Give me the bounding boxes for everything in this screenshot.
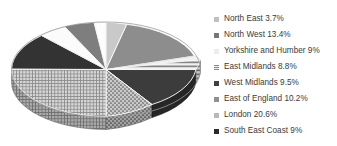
legend-label-london: London 20.6% xyxy=(224,107,277,123)
legend-label-yorkshire-and-humber: Yorkshire and Humber 9% xyxy=(224,43,320,59)
legend-swatch-east-of-england xyxy=(214,97,219,102)
legend-item-west-midlands[interactable]: West Midlands 9.5% xyxy=(212,75,337,91)
legend-swatch-london xyxy=(214,113,219,118)
legend-item-south-east-coast[interactable]: South East Coast 9% xyxy=(212,123,337,139)
legend-item-london[interactable]: London 20.6% xyxy=(212,107,337,123)
pie-chart-figure: North East 3.7% North West 13.4% Yorkshi… xyxy=(0,0,337,146)
pie-slice-london xyxy=(12,69,107,117)
legend-label-west-midlands: West Midlands 9.5% xyxy=(224,75,299,91)
legend-label-east-of-england: East of England 10.2% xyxy=(224,91,308,107)
chart-legend: North East 3.7% North West 13.4% Yorkshi… xyxy=(212,11,337,139)
legend-swatch-south-east-coast xyxy=(214,129,219,134)
legend-swatch-north-east xyxy=(214,17,219,22)
legend-swatch-west-midlands xyxy=(214,81,219,86)
legend-item-yorkshire-and-humber[interactable]: Yorkshire and Humber 9% xyxy=(212,43,337,59)
pie-chart-svg xyxy=(0,0,212,146)
legend-item-east-of-england[interactable]: East of England 10.2% xyxy=(212,91,337,107)
pie-chart-plot-area xyxy=(0,0,212,146)
legend-label-north-west: North West 13.4% xyxy=(224,27,291,43)
legend-item-east-midlands[interactable]: East Midlands 8.8% xyxy=(212,59,337,75)
legend-item-north-east[interactable]: North East 3.7% xyxy=(212,11,337,27)
legend-label-south-east-coast: South East Coast 9% xyxy=(224,123,302,139)
legend-swatch-yorkshire-and-humber xyxy=(214,49,219,54)
legend-swatch-north-west xyxy=(214,33,219,38)
legend-label-east-midlands: East Midlands 8.8% xyxy=(224,59,297,75)
legend-label-north-east: North East 3.7% xyxy=(224,11,284,27)
legend-item-north-west[interactable]: North West 13.4% xyxy=(212,27,337,43)
legend-swatch-east-midlands xyxy=(214,65,219,70)
